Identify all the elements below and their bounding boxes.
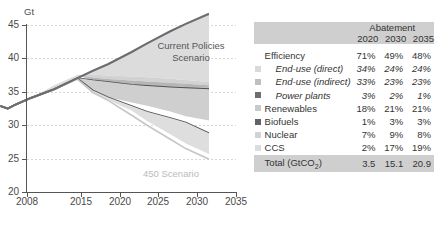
row-label-power-plants: Power plants	[265, 89, 351, 102]
header-abatement-label: Abatement	[351, 22, 434, 33]
abatement-table: Abatement 2020 2030 2035 Efficiency 71% …	[254, 22, 434, 172]
row-value-renewables-2035: 21%	[406, 102, 434, 115]
row-swatch-enduse-indirect	[254, 75, 265, 88]
total-value-2020: 3.5	[351, 155, 379, 173]
total-value-2030: 15.1	[378, 155, 406, 173]
x-tick-label-2015: 2015	[61, 196, 101, 207]
table-row: End-use (direct) 34% 24% 24%	[254, 62, 434, 75]
x-tick-label-2008: 2008	[7, 196, 47, 207]
y-tick-mark-35	[22, 92, 27, 93]
row-label-renewables: Renewables	[265, 102, 351, 115]
x-axis-line	[26, 192, 237, 193]
header-year-swatch-spacer	[254, 33, 265, 44]
row-value-enduse-indirect-2035: 23%	[406, 75, 434, 88]
row-value-enduse-direct-2030: 24%	[378, 62, 406, 75]
y-tick-label-25: 25	[0, 153, 19, 164]
table-header-group-row: Abatement	[254, 22, 434, 33]
y-tick-label-40: 40	[0, 52, 19, 63]
table-row: Renewables 18% 21% 21%	[254, 102, 434, 115]
row-label-efficiency: Efficiency	[265, 49, 351, 62]
table-row: CCS 2% 17% 19%	[254, 141, 434, 154]
legend-swatch-icon	[255, 92, 261, 98]
x-tick-label-2025: 2025	[138, 196, 178, 207]
row-label-nuclear: Nuclear	[265, 128, 351, 141]
legend-swatch-icon	[255, 132, 261, 138]
row-value-biofuels-2020: 1%	[351, 115, 379, 128]
table-total-row: Total (GtCO2) 3.5 15.1 20.9	[254, 155, 434, 173]
row-value-enduse-indirect-2020: 33%	[351, 75, 379, 88]
header-year-2030: 2030	[378, 33, 406, 44]
row-value-power-plants-2030: 2%	[378, 89, 406, 102]
row-swatch-power-plants	[254, 89, 265, 102]
header-swatch-spacer	[254, 22, 265, 33]
emissions-chart: Gt	[0, 0, 250, 226]
table-row: Nuclear 7% 9% 8%	[254, 128, 434, 141]
row-value-ccs-2030: 17%	[378, 141, 406, 154]
total-value-2035: 20.9	[406, 155, 434, 173]
row-swatch-nuclear	[254, 128, 265, 141]
row-swatch-biofuels	[254, 115, 265, 128]
row-value-enduse-direct-2020: 34%	[351, 62, 379, 75]
row-label-biofuels: Biofuels	[265, 115, 351, 128]
abatement-table-panel: Abatement 2020 2030 2035 Efficiency 71% …	[254, 22, 434, 172]
row-value-ccs-2035: 19%	[406, 141, 434, 154]
row-value-biofuels-2035: 3%	[406, 115, 434, 128]
row-value-efficiency-2035: 48%	[406, 49, 434, 62]
x-tick-label-2035: 2035	[216, 196, 256, 207]
x-tick-label-2030: 2030	[177, 196, 217, 207]
row-label-enduse-direct: End-use (direct)	[265, 62, 351, 75]
y-tick-label-30: 30	[0, 119, 19, 130]
legend-swatch-icon	[255, 66, 261, 72]
row-value-ccs-2020: 2%	[351, 141, 379, 154]
row-value-efficiency-2020: 71%	[351, 49, 379, 62]
row-value-enduse-direct-2035: 24%	[406, 62, 434, 75]
screenshot-root: Gt	[0, 0, 438, 226]
row-swatch-ccs	[254, 141, 265, 154]
row-swatch-efficiency	[254, 49, 265, 62]
header-year-label-spacer	[265, 33, 351, 44]
y-tick-mark-40	[22, 58, 27, 59]
row-value-efficiency-2030: 49%	[378, 49, 406, 62]
chart-plot-area	[0, 0, 209, 167]
y-tick-label-35: 35	[0, 86, 19, 97]
total-label-suffix: )	[319, 157, 322, 168]
legend-swatch-icon	[255, 119, 261, 125]
annotation-cps-line2: Scenario	[172, 52, 210, 63]
row-value-biofuels-2030: 3%	[378, 115, 406, 128]
row-label-ccs: CCS	[265, 141, 351, 154]
y-tick-mark-25	[22, 159, 27, 160]
x-tick-label-2020: 2020	[100, 196, 140, 207]
row-value-renewables-2030: 21%	[378, 102, 406, 115]
row-value-renewables-2020: 18%	[351, 102, 379, 115]
row-value-power-plants-2035: 1%	[406, 89, 434, 102]
row-value-nuclear-2035: 8%	[406, 128, 434, 141]
total-swatch-spacer	[254, 155, 265, 173]
header-label-spacer	[265, 22, 351, 33]
header-year-2020: 2020	[351, 33, 379, 44]
row-label-enduse-indirect: End-use (indirect)	[265, 75, 351, 88]
header-year-2035: 2035	[406, 33, 434, 44]
table-row: Power plants 3% 2% 1%	[254, 89, 434, 102]
y-tick-mark-30	[22, 125, 27, 126]
row-swatch-enduse-direct	[254, 62, 265, 75]
table-header-year-row: 2020 2030 2035	[254, 33, 434, 44]
y-tick-mark-45	[22, 25, 27, 26]
row-value-enduse-indirect-2030: 23%	[378, 75, 406, 88]
row-value-nuclear-2020: 7%	[351, 128, 379, 141]
annotation-450-scenario: 450 Scenario	[143, 168, 199, 180]
annotation-current-policies: Current Policies Scenario	[150, 40, 232, 63]
row-value-nuclear-2030: 9%	[378, 128, 406, 141]
table-row: Biofuels 1% 3% 3%	[254, 115, 434, 128]
total-label: Total (GtCO2)	[265, 155, 351, 173]
legend-swatch-icon	[255, 105, 261, 111]
row-value-power-plants-2020: 3%	[351, 89, 379, 102]
y-tick-label-45: 45	[0, 19, 19, 30]
row-swatch-renewables	[254, 102, 265, 115]
annotation-cps-line1: Current Policies	[157, 40, 224, 51]
legend-swatch-icon	[255, 79, 261, 85]
y-axis-line	[26, 24, 27, 193]
table-row: Efficiency 71% 49% 48%	[254, 49, 434, 62]
total-label-prefix: Total (GtCO	[265, 157, 315, 168]
table-row: End-use (indirect) 33% 23% 23%	[254, 75, 434, 88]
legend-swatch-icon	[255, 145, 261, 151]
